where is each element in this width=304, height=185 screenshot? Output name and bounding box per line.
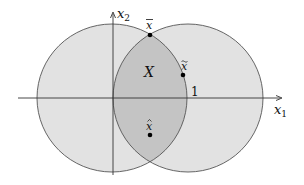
region-x-label: X [143, 64, 155, 80]
point-x-hat-label: x [146, 120, 153, 133]
point-x-bar-label: x [146, 19, 153, 32]
x1-axis-label: x1 [274, 102, 287, 119]
point-x-bar [148, 33, 153, 38]
point-x-tilde [181, 73, 186, 78]
point-x-hat [148, 133, 153, 138]
diagram-canvas: x1 x2 1 X x x x [0, 0, 304, 185]
tick-label-one: 1 [191, 85, 199, 99]
x2-axis-label: x2 [117, 6, 130, 23]
